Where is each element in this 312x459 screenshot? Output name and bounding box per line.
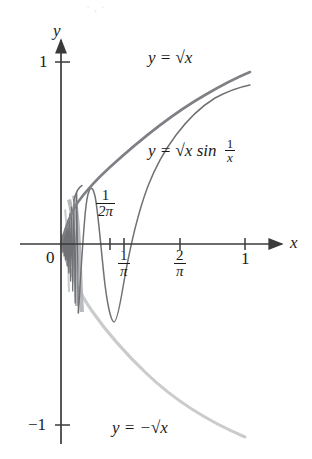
curve-sqrt-sin: [61, 85, 250, 322]
fraction-1-over-x: 1 x: [225, 137, 236, 164]
fraction-denominator: π: [118, 263, 130, 279]
fraction-denominator: x: [225, 150, 236, 164]
curve-negative-sqrt: [61, 244, 245, 437]
x-tick-label-1-over-pi: 1 π: [118, 250, 130, 281]
y-axis-label: y: [53, 22, 61, 39]
fraction-numerator: 1: [96, 188, 115, 203]
x-tick-label-1-over-2pi: 1 2π: [96, 190, 115, 221]
x-tick-label-1: 1: [241, 250, 250, 267]
curve-label-sqrt-sin: y = √x sin 1 x: [148, 139, 235, 166]
fraction-numerator: 1: [225, 137, 236, 150]
x-axis-label: x: [290, 234, 298, 251]
curve-label-sqrt: y = √x: [148, 49, 192, 66]
math-figure: ·,·: [0, 0, 312, 459]
fraction-1-over-2pi: 1 2π: [96, 188, 115, 219]
fraction-1-over-pi: 1 π: [118, 248, 130, 279]
fraction-numerator: 2: [174, 248, 186, 263]
y-tick-label-minus-1: −1: [28, 416, 46, 433]
y-tick-label-1: 1: [39, 53, 48, 70]
curve-label-sqrt-sin-text: y = √x sin: [148, 141, 216, 160]
x-tick-label-2-over-pi: 2 π: [174, 250, 186, 281]
fraction-numerator: 1: [118, 248, 130, 263]
fraction-2-over-pi: 2 π: [174, 248, 186, 279]
fraction-denominator: π: [174, 263, 186, 279]
x-tick-label-0: 0: [46, 249, 55, 266]
curve-label-negative-sqrt: y = −√x: [112, 419, 168, 436]
fraction-denominator: 2π: [96, 203, 115, 219]
